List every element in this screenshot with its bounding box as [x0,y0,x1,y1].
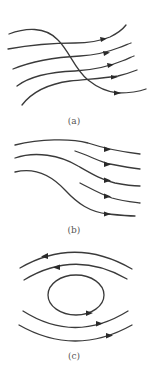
streamline-s-curve-end [118,89,146,93]
panel-b [15,140,140,217]
arrowhead [104,194,111,200]
streamline-3 [15,155,140,186]
streamline-3 [17,56,134,86]
arc-bottom-inner [23,311,128,328]
streamline-5 [15,171,135,216]
caption-b: (b) [54,225,94,235]
arrowhead [104,162,111,168]
panel-c [19,252,132,341]
arrowhead [114,91,121,96]
arrowhead [96,321,103,327]
arrowhead [100,37,107,42]
panel-a [8,25,146,105]
arrowhead [104,212,111,217]
arrowhead [104,147,111,153]
streamline-1 [8,25,126,49]
arrowhead [53,265,60,271]
closed-streamline [48,275,104,315]
caption-c: (c) [54,351,94,361]
streamline-2-short [75,151,140,169]
arc-top-outer [20,252,132,269]
streamline-2 [13,43,131,69]
streamline-diagram [0,0,153,372]
arc-top-inner [24,264,127,280]
caption-a: (a) [54,116,94,126]
